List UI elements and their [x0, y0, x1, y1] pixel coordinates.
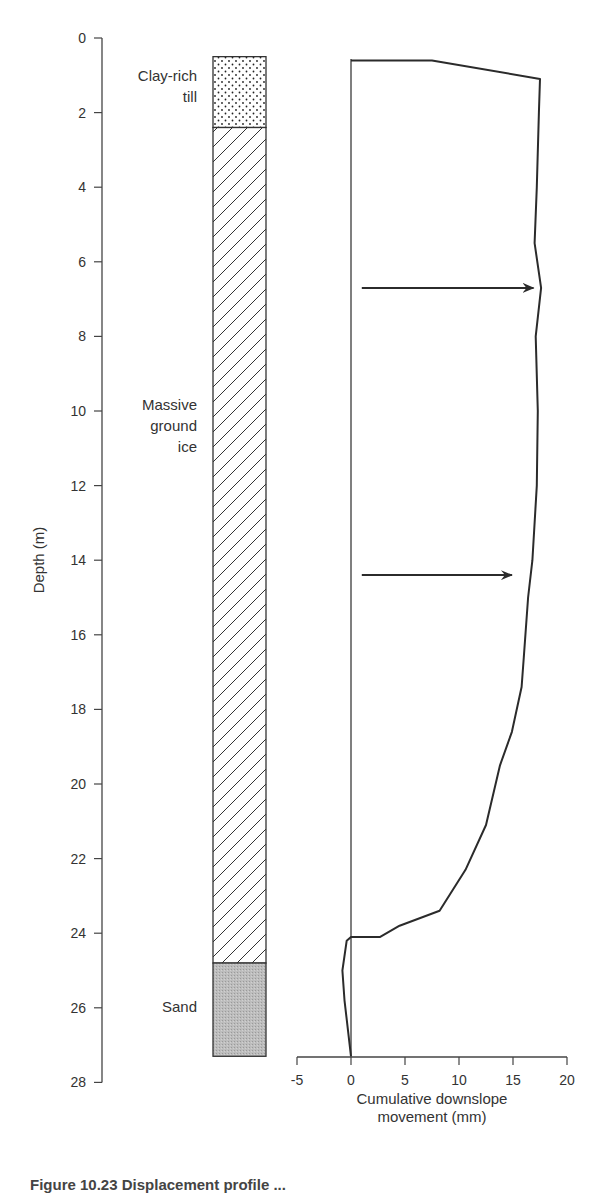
- movement-tick-label: 0: [347, 1072, 355, 1088]
- strat-layer-label: ground: [150, 417, 197, 434]
- depth-tick-label: 6: [78, 254, 86, 270]
- strat-layer-diagonal-hatch: [213, 128, 266, 964]
- depth-tick-label: 22: [70, 851, 86, 867]
- depth-tick-label: 10: [70, 403, 86, 419]
- movement-tick-label: 15: [505, 1072, 521, 1088]
- strat-layer-label: ice: [178, 438, 197, 455]
- strat-layer-label: Sand: [162, 998, 197, 1015]
- strat-layer-label: till: [183, 88, 197, 105]
- displacement-plot: [342, 59, 541, 1057]
- depth-tick-label: 14: [70, 552, 86, 568]
- depth-axis: 0246810121416182022242628: [70, 30, 102, 1090]
- strat-layer-label: Clay-rich: [138, 67, 197, 84]
- movement-tick-label: 10: [451, 1072, 467, 1088]
- depth-tick-label: 26: [70, 1000, 86, 1016]
- strat-layer-grey-stipple: [213, 963, 266, 1056]
- figure-caption: Figure 10.23 Displacement profile ...: [30, 1176, 286, 1193]
- depth-tick-label: 4: [78, 179, 86, 195]
- depth-tick-label: 0: [78, 30, 86, 46]
- movement-axis: -505101520: [291, 1057, 575, 1088]
- stratigraphic-column: Clay-richtillMassivegroundiceSand: [138, 57, 266, 1057]
- depth-axis-title: Depth (m): [30, 527, 47, 594]
- depth-tick-label: 18: [70, 701, 86, 717]
- depth-tick-label: 16: [70, 627, 86, 643]
- strat-layer-dots: [213, 57, 266, 128]
- movement-arrows: [362, 288, 534, 575]
- depth-tick-label: 8: [78, 328, 86, 344]
- movement-tick-label: 5: [401, 1072, 409, 1088]
- strat-layer-label: Massive: [142, 396, 197, 413]
- movement-tick-label: -5: [291, 1072, 304, 1088]
- depth-tick-label: 24: [70, 925, 86, 941]
- depth-tick-label: 28: [70, 1074, 86, 1090]
- movement-axis-title-line2: movement (mm): [377, 1108, 486, 1125]
- displacement-profile-line: [342, 60, 541, 1056]
- movement-axis-title-line1: Cumulative downslope: [357, 1090, 508, 1107]
- depth-tick-label: 12: [70, 478, 86, 494]
- depth-tick-label: 2: [78, 105, 86, 121]
- movement-tick-label: 20: [559, 1072, 575, 1088]
- depth-tick-label: 20: [70, 776, 86, 792]
